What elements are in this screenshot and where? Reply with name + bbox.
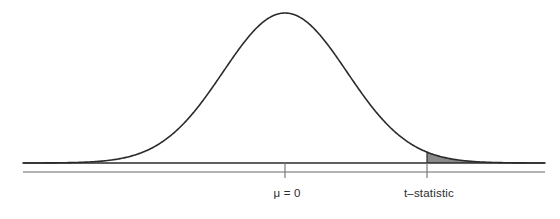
- mu-axis-label: μ = 0: [273, 188, 300, 200]
- t-statistic-axis-label: t–statistic: [404, 188, 454, 200]
- normal-distribution-curve: [23, 13, 545, 163]
- axis-tick-group: [285, 163, 427, 178]
- distribution-figure: μ = 0 t–statistic: [0, 0, 560, 219]
